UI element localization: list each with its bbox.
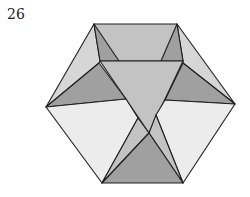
diagram-faces xyxy=(46,24,235,183)
origami-diagram xyxy=(0,0,250,197)
